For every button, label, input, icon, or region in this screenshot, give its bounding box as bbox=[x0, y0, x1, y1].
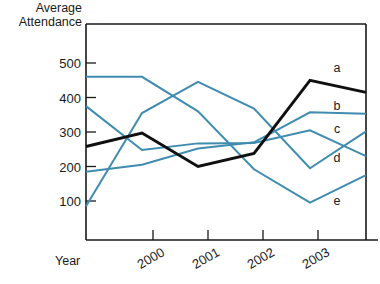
series-label-e: e bbox=[334, 194, 341, 208]
y-axis-title-line2: Attendance bbox=[19, 15, 82, 29]
y-tick-label-500: 500 bbox=[59, 56, 81, 71]
series-line-b bbox=[86, 112, 366, 171]
x-tick-label-2000: 2000 bbox=[134, 244, 167, 271]
line-chart: 500 400 300 200 100 Average Attendance Y… bbox=[0, 0, 380, 284]
series-layer bbox=[86, 77, 366, 206]
series-label-layer: abcde bbox=[334, 61, 341, 208]
series-label-d: d bbox=[334, 151, 341, 165]
series-label-c: c bbox=[334, 122, 340, 136]
y-tick-label-400: 400 bbox=[59, 91, 81, 106]
chart-container: 500 400 300 200 100 Average Attendance Y… bbox=[0, 0, 380, 284]
series-label-a: a bbox=[334, 61, 341, 75]
x-tick-labels: 2000 2001 2002 2003 bbox=[134, 244, 332, 271]
y-tick-label-100: 100 bbox=[59, 194, 81, 209]
x-tick-label-2001: 2001 bbox=[189, 244, 222, 271]
x-axis-title: Year bbox=[55, 254, 80, 268]
y-axis-title: Average Attendance bbox=[19, 1, 82, 29]
x-tick-marks bbox=[153, 230, 318, 240]
y-tick-labels: 500 400 300 200 100 bbox=[59, 56, 81, 209]
x-tick-label-2002: 2002 bbox=[244, 244, 277, 271]
y-tick-label-200: 200 bbox=[59, 160, 81, 175]
y-axis-title-line1: Average bbox=[36, 1, 82, 15]
y-tick-marks bbox=[86, 63, 96, 201]
x-tick-label-2003: 2003 bbox=[299, 244, 332, 271]
series-label-b: b bbox=[334, 99, 341, 113]
y-tick-label-300: 300 bbox=[59, 125, 81, 140]
series-line-a bbox=[86, 80, 366, 166]
